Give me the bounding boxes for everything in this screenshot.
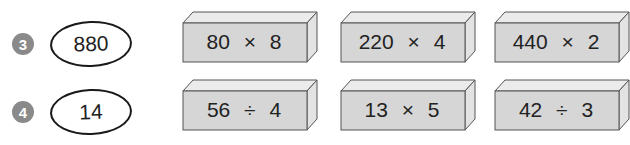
expression-text: 42 ÷ 3 bbox=[494, 90, 618, 129]
problem-number-badge: 3 bbox=[12, 33, 34, 55]
expression-box[interactable]: 42 ÷ 3 bbox=[494, 79, 630, 131]
problem-number-badge: 4 bbox=[12, 101, 34, 123]
expression-text: 56 ÷ 4 bbox=[182, 90, 306, 129]
expression-box[interactable]: 220 × 4 bbox=[340, 11, 476, 63]
expression-box[interactable]: 13 × 5 bbox=[340, 79, 476, 131]
expression-text: 80 × 8 bbox=[182, 22, 306, 61]
expression-box[interactable]: 80 × 8 bbox=[182, 11, 318, 63]
expression-box[interactable]: 56 ÷ 4 bbox=[182, 79, 318, 131]
answer-oval: 880 bbox=[49, 20, 133, 69]
answer-oval: 14 bbox=[49, 88, 133, 137]
expression-text: 13 × 5 bbox=[340, 90, 464, 129]
expression-box[interactable]: 440 × 2 bbox=[494, 11, 630, 63]
expression-text: 220 × 4 bbox=[340, 22, 464, 61]
expression-text: 440 × 2 bbox=[494, 22, 618, 61]
